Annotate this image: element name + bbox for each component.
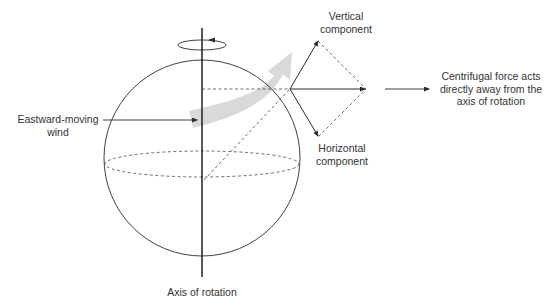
earth-rotation-diagram: [0, 0, 550, 308]
axis-of-rotation-label-text: Axis of rotation: [152, 286, 252, 299]
vertical-component-label: Vertical component: [311, 10, 381, 35]
centrifugal-force-label-line1: Centrifugal force acts: [432, 70, 550, 83]
eastward-wind-arrow: [189, 52, 292, 128]
eastward-wind-label-line2: wind: [14, 126, 102, 139]
vertical-component-vector: [290, 41, 318, 89]
vertical-component-label-line1: Vertical: [311, 10, 381, 23]
centrifugal-force-label-line2: directly away from the: [432, 83, 550, 96]
eastward-wind-label-line1: Eastward-moving: [14, 113, 102, 126]
eastward-wind-label: Eastward-moving wind: [14, 113, 102, 138]
centrifugal-force-label-line3: axis of rotation: [432, 95, 550, 108]
rotation-direction-arrowhead-icon: [208, 38, 215, 43]
horizontal-component-label: Horizontal component: [302, 142, 382, 167]
vertical-component-label-line2: component: [311, 23, 381, 36]
horizontal-component-label-line1: Horizontal: [302, 142, 382, 155]
horizontal-component-vector: [290, 89, 318, 136]
centrifugal-force-label: Centrifugal force acts directly away fro…: [432, 70, 550, 108]
horizontal-component-label-line2: component: [302, 155, 382, 168]
axis-of-rotation-label: Axis of rotation: [152, 286, 252, 299]
